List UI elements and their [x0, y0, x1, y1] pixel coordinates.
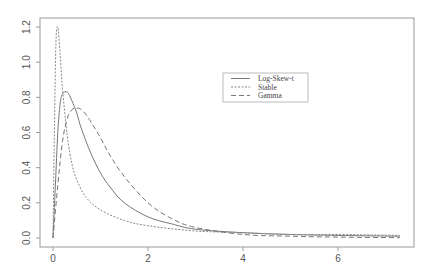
series-lines [53, 27, 400, 238]
y-tick-label: 0.6 [21, 125, 32, 139]
series-line-log-skew-t [53, 92, 400, 238]
x-axis: 0246 [50, 247, 341, 264]
plot-frame [40, 18, 414, 247]
y-tick-label: 1.2 [21, 20, 32, 34]
y-axis: 0.00.20.40.60.81.01.2 [21, 20, 40, 245]
x-tick-label: 6 [335, 253, 341, 264]
y-tick-label: 1.0 [21, 55, 32, 69]
x-tick-label: 0 [50, 253, 56, 264]
y-tick-label: 0.4 [21, 160, 32, 174]
series-line-gamma [53, 108, 400, 238]
density-chart: 0.00.20.40.60.81.01.2 0246 Log-Skew-tSta… [0, 0, 435, 278]
series-line-stable [53, 27, 400, 238]
legend-label: Gamma [258, 91, 282, 100]
x-tick-label: 2 [145, 253, 151, 264]
y-tick-label: 0.8 [21, 90, 32, 104]
y-tick-label: 0.2 [21, 195, 32, 209]
legend: Log-Skew-tStableGamma [223, 73, 308, 102]
y-tick-label: 0.0 [21, 231, 32, 245]
x-tick-label: 4 [240, 253, 246, 264]
